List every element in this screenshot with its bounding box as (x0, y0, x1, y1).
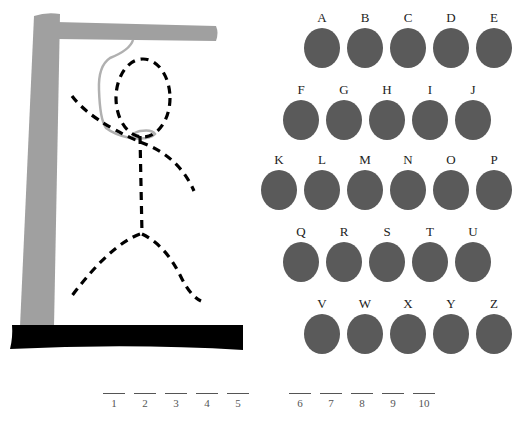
letter-button-c[interactable]: C (390, 10, 426, 68)
letter-label: F (283, 82, 319, 98)
blank-position-number: 1 (99, 397, 129, 410)
word-blank-3: 3 (165, 393, 187, 417)
letter-label: X (390, 296, 426, 312)
blank-underline (134, 393, 156, 394)
letter-disc[interactable] (476, 314, 512, 354)
letter-disc[interactable] (390, 314, 426, 354)
blank-underline (196, 393, 218, 394)
gallows-drawing (0, 0, 260, 360)
letter-label: O (433, 152, 469, 168)
letter-label: P (476, 152, 512, 168)
letter-button-b[interactable]: B (347, 10, 383, 68)
letter-label: J (455, 82, 491, 98)
letter-disc[interactable] (326, 100, 362, 140)
letter-disc[interactable] (369, 242, 405, 282)
letter-disc[interactable] (476, 28, 512, 68)
letter-label: W (347, 296, 383, 312)
blank-position-number: 7 (316, 397, 346, 410)
letter-button-d[interactable]: D (433, 10, 469, 68)
blank-position-number: 6 (285, 397, 315, 410)
word-blank-9: 9 (382, 393, 404, 417)
letter-button-l[interactable]: L (304, 152, 340, 210)
blank-underline (413, 393, 435, 394)
blank-position-number: 2 (130, 397, 160, 410)
letter-disc[interactable] (455, 100, 491, 140)
letter-label: Y (433, 296, 469, 312)
figure-head (116, 59, 170, 137)
letter-button-h[interactable]: H (369, 82, 405, 140)
letter-disc[interactable] (347, 170, 383, 210)
word-blank-2: 2 (134, 393, 156, 417)
letter-label: B (347, 10, 383, 26)
letter-button-i[interactable]: I (412, 82, 448, 140)
letter-disc[interactable] (326, 242, 362, 282)
blank-underline (320, 393, 342, 394)
letter-button-a[interactable]: A (304, 10, 340, 68)
letter-button-k[interactable]: K (261, 152, 297, 210)
letter-disc[interactable] (283, 100, 319, 140)
blank-position-number: 9 (378, 397, 408, 410)
word-blank-5: 5 (227, 393, 249, 417)
letter-disc[interactable] (347, 28, 383, 68)
word-blank-7: 7 (320, 393, 342, 417)
figure-right-arm (140, 142, 194, 191)
blank-underline (165, 393, 187, 394)
letter-button-t[interactable]: T (412, 224, 448, 282)
letter-button-w[interactable]: W (347, 296, 383, 354)
word-blank-6: 6 (289, 393, 311, 417)
letter-disc[interactable] (304, 28, 340, 68)
letter-button-v[interactable]: V (304, 296, 340, 354)
letter-button-u[interactable]: U (455, 224, 491, 282)
letter-button-j[interactable]: J (455, 82, 491, 140)
letter-button-x[interactable]: X (390, 296, 426, 354)
figure-left-leg (71, 234, 140, 297)
blank-underline (103, 393, 125, 394)
letter-disc[interactable] (390, 28, 426, 68)
blank-position-number: 10 (409, 397, 439, 410)
letter-button-m[interactable]: M (347, 152, 383, 210)
letter-label: A (304, 10, 340, 26)
letter-button-y[interactable]: Y (433, 296, 469, 354)
blank-position-number: 8 (347, 397, 377, 410)
letter-button-e[interactable]: E (476, 10, 512, 68)
letter-label: D (433, 10, 469, 26)
letter-disc[interactable] (455, 242, 491, 282)
letter-label: E (476, 10, 512, 26)
letter-disc[interactable] (433, 314, 469, 354)
blank-position-number: 5 (223, 397, 253, 410)
letter-button-n[interactable]: N (390, 152, 426, 210)
letter-disc[interactable] (390, 170, 426, 210)
letter-disc[interactable] (304, 170, 340, 210)
letter-button-o[interactable]: O (433, 152, 469, 210)
letter-button-z[interactable]: Z (476, 296, 512, 354)
letter-disc[interactable] (433, 170, 469, 210)
letter-button-g[interactable]: G (326, 82, 362, 140)
word-blank-4: 4 (196, 393, 218, 417)
word-blank-10: 10 (413, 393, 435, 417)
letter-disc[interactable] (412, 242, 448, 282)
letter-disc[interactable] (304, 314, 340, 354)
letter-button-f[interactable]: F (283, 82, 319, 140)
letter-label: U (455, 224, 491, 240)
figure-right-leg (142, 234, 201, 301)
letter-label: V (304, 296, 340, 312)
letter-button-q[interactable]: Q (283, 224, 319, 282)
letter-label: T (412, 224, 448, 240)
letter-label: S (369, 224, 405, 240)
letter-disc[interactable] (433, 28, 469, 68)
letter-disc[interactable] (412, 100, 448, 140)
letter-button-s[interactable]: S (369, 224, 405, 282)
letter-label: R (326, 224, 362, 240)
blank-underline (227, 393, 249, 394)
letter-disc[interactable] (283, 242, 319, 282)
figure-body (140, 136, 142, 234)
letter-disc[interactable] (261, 170, 297, 210)
letter-disc[interactable] (369, 100, 405, 140)
letter-button-p[interactable]: P (476, 152, 512, 210)
letter-disc[interactable] (476, 170, 512, 210)
blank-position-number: 3 (161, 397, 191, 410)
letter-label: Q (283, 224, 319, 240)
letter-label: M (347, 152, 383, 168)
letter-disc[interactable] (347, 314, 383, 354)
letter-button-r[interactable]: R (326, 224, 362, 282)
